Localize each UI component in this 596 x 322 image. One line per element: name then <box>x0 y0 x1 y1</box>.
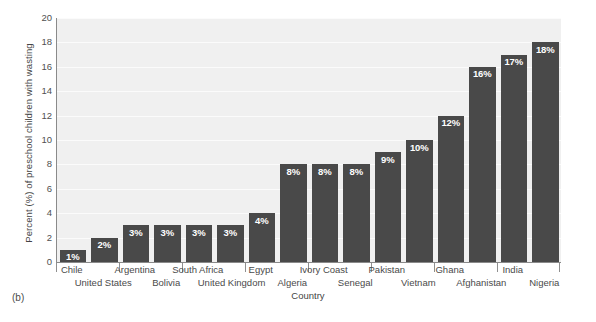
bar[interactable]: 8% <box>343 164 370 262</box>
bar-value-label: 18% <box>536 45 555 55</box>
bar-value-label: 10% <box>410 143 429 153</box>
y-axis-tick-label: 16 <box>28 62 52 72</box>
bar[interactable]: 4% <box>249 213 276 262</box>
x-axis-tick-label: Ghana <box>418 264 481 275</box>
bar[interactable]: 8% <box>312 164 339 262</box>
bar[interactable]: 1% <box>60 250 87 262</box>
y-axis-tick-label: 18 <box>28 37 52 47</box>
y-axis-tick-label: 12 <box>28 111 52 121</box>
x-axis-tick-label: Senegal <box>324 277 387 288</box>
bar-slot: 3% <box>152 18 184 262</box>
x-axis-tick-label: India <box>481 264 544 275</box>
bar-slot: 8% <box>309 18 341 262</box>
x-axis-title: Country <box>56 290 560 301</box>
x-axis-tick-label: Egypt <box>229 264 292 275</box>
x-axis-tick-label: Chile <box>40 264 103 275</box>
bar-value-label: 12% <box>441 118 460 128</box>
y-axis-tick-label: 6 <box>28 184 52 194</box>
bar[interactable]: 10% <box>406 140 433 262</box>
bar-series: 1%2%3%3%3%3%4%8%8%8%9%10%12%16%17%18% <box>57 18 561 262</box>
bar-value-label: 9% <box>381 155 395 165</box>
y-axis-tick-label: 2 <box>28 233 52 243</box>
x-axis-tick-label: Algeria <box>261 277 324 288</box>
x-axis-tick-label: Ivory Coast <box>292 264 355 275</box>
x-axis-tick-label: Vietnam <box>387 277 450 288</box>
bar-slot: 3% <box>183 18 215 262</box>
bar-slot: 3% <box>120 18 152 262</box>
bar-value-label: 3% <box>192 228 206 238</box>
bar-value-label: 3% <box>223 228 237 238</box>
plot-area: 1%2%3%3%3%3%4%8%8%8%9%10%12%16%17%18% <box>56 18 561 263</box>
x-axis-tick-label: United Kingdom <box>198 277 261 288</box>
x-axis-tick-label: Pakistan <box>355 264 418 275</box>
x-axis-tick-label: Nigeria <box>513 277 576 288</box>
bar-value-label: 16% <box>473 69 492 79</box>
bar-value-label: 4% <box>255 216 269 226</box>
y-axis-tick-label: 8 <box>28 159 52 169</box>
bar-slot: 9% <box>372 18 404 262</box>
bar-value-label: 8% <box>286 167 300 177</box>
x-axis-tick-label: South Africa <box>166 264 229 275</box>
panel-tag: (b) <box>12 292 24 303</box>
bar-value-label: 17% <box>504 57 523 67</box>
bar-slot: 16% <box>467 18 499 262</box>
x-axis-tick-labels: ChileUnited StatesArgentinaBoliviaSouth … <box>56 264 560 290</box>
bar-slot: 10% <box>404 18 436 262</box>
bar[interactable]: 3% <box>123 225 150 262</box>
y-axis-tick-label: 20 <box>28 13 52 23</box>
x-axis-tick-label: Bolivia <box>135 277 198 288</box>
bar[interactable]: 12% <box>438 116 465 262</box>
bar[interactable]: 8% <box>280 164 307 262</box>
bar-slot: 2% <box>89 18 121 262</box>
x-axis-tick-label: Argentina <box>103 264 166 275</box>
figure-panel: Percent (%) of preschool children with w… <box>0 0 596 322</box>
bar[interactable]: 9% <box>375 152 402 262</box>
bar-slot: 8% <box>341 18 373 262</box>
x-axis-tick-label: United States <box>72 277 135 288</box>
bar[interactable]: 18% <box>532 42 559 262</box>
bar[interactable]: 17% <box>501 55 528 262</box>
bar-slot: 1% <box>57 18 89 262</box>
bar-slot: 3% <box>215 18 247 262</box>
bar-value-label: 8% <box>349 167 363 177</box>
bar[interactable]: 16% <box>469 67 496 262</box>
bar[interactable]: 3% <box>217 225 244 262</box>
bar-slot: 4% <box>246 18 278 262</box>
bar-value-label: 3% <box>160 228 174 238</box>
bar[interactable]: 2% <box>91 238 118 262</box>
bar-slot: 18% <box>530 18 562 262</box>
bar-slot: 8% <box>278 18 310 262</box>
y-axis-tick-label: 4 <box>28 208 52 218</box>
y-axis-tick-labels: 02468101214161820 <box>28 18 52 262</box>
bar[interactable]: 3% <box>186 225 213 262</box>
y-axis-tick-label: 10 <box>28 135 52 145</box>
y-axis-tick-label: 14 <box>28 86 52 96</box>
bar-value-label: 2% <box>97 240 111 250</box>
bar[interactable]: 3% <box>154 225 181 262</box>
bar-value-label: 3% <box>129 228 143 238</box>
bar-value-label: 1% <box>66 252 80 262</box>
x-axis-tick-label: Afghanistan <box>450 277 513 288</box>
bar-value-label: 8% <box>318 167 332 177</box>
bar-slot: 17% <box>498 18 530 262</box>
bar-slot: 12% <box>435 18 467 262</box>
